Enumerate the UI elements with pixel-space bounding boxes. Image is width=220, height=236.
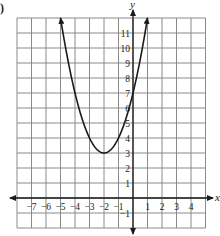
- y-axis-label: y: [129, 0, 135, 10]
- grid: [17, 18, 206, 228]
- x-tick-label: −7: [26, 202, 36, 212]
- axes: xy: [10, 0, 220, 234]
- x-tick-label: −2: [99, 202, 109, 212]
- y-tick-label: 3: [125, 149, 130, 159]
- x-tick-label: 3: [174, 202, 179, 212]
- x-tick-label: −6: [41, 202, 51, 212]
- y-tick-label: 10: [121, 44, 131, 54]
- parabola-left-branch: [61, 18, 105, 153]
- y-tick-label: 1: [125, 179, 130, 189]
- x-tick-label: 1: [145, 202, 150, 212]
- coordinate-plane: xy −7−6−5−4−3−2−112341110987654321−1: [0, 0, 220, 236]
- x-tick-label: −3: [84, 202, 94, 212]
- y-tick-label: −1: [120, 209, 130, 219]
- y-tick-label: 8: [125, 74, 130, 84]
- y-tick-label: 2: [125, 164, 130, 174]
- y-tick-label: 9: [125, 59, 130, 69]
- y-tick-label: 7: [125, 89, 130, 99]
- y-tick-label: 11: [121, 29, 130, 39]
- x-axis-label: x: [214, 191, 220, 203]
- y-tick-label: 4: [125, 134, 130, 144]
- x-tick-label: −4: [70, 202, 80, 212]
- x-tick-label: 4: [189, 202, 194, 212]
- x-tick-label: 2: [160, 202, 165, 212]
- x-tick-label: −5: [55, 202, 65, 212]
